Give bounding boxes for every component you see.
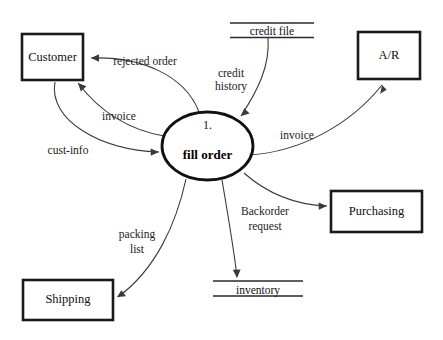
- entity-ar-label: A/R: [379, 48, 401, 62]
- process-fill-order-name: fill order: [183, 147, 233, 162]
- flow-label-backorder-request-line1: Backorder: [241, 205, 289, 217]
- diagram-canvas: Customer A/R Purchasing Shipping credit …: [0, 0, 443, 340]
- flow-label-credit-history-line2: history: [215, 80, 247, 93]
- flow-invoice-ar: [249, 85, 387, 155]
- flow-label-credit-history: credit history: [215, 67, 247, 93]
- process-fill-order[interactable]: 1. fill order: [162, 112, 253, 180]
- flow-label-cust-info: cust-info: [48, 144, 89, 156]
- flow-label-invoice-ar: invoice: [280, 129, 314, 141]
- datastore-inventory-label: inventory: [236, 284, 280, 297]
- entity-shipping-label: Shipping: [45, 292, 91, 306]
- datastore-credit-file[interactable]: credit file: [230, 23, 314, 38]
- flow-inventory: [222, 180, 241, 278]
- entity-purchasing-label: Purchasing: [349, 204, 405, 218]
- flow-inventory-path: [222, 180, 237, 277]
- flow-credit-history-arrowhead: [241, 108, 250, 116]
- flow-label-rejected-order: rejected order: [113, 55, 177, 68]
- entity-ar[interactable]: A/R: [358, 32, 420, 79]
- datastore-inventory[interactable]: inventory: [213, 281, 303, 297]
- datastore-credit-file-label: credit file: [250, 25, 294, 37]
- flow-cust-info-arrowhead: [151, 148, 159, 155]
- process-fill-order-number: 1.: [203, 118, 212, 132]
- flow-backorder-request-arrowhead: [319, 202, 327, 209]
- flow-invoice-customer-arrowhead: [78, 83, 86, 91]
- flow-label-backorder-request: Backorder request: [241, 205, 289, 233]
- flow-label-packing-list-line2: list: [130, 243, 145, 255]
- flow-label-invoice-customer: invoice: [102, 110, 136, 122]
- entity-customer[interactable]: Customer: [22, 34, 83, 80]
- flow-label-packing-list: packing list: [119, 228, 156, 255]
- entity-shipping[interactable]: Shipping: [23, 280, 113, 320]
- flow-label-packing-list-line1: packing: [119, 228, 156, 241]
- entity-purchasing[interactable]: Purchasing: [331, 191, 422, 232]
- flow-rejected-order-arrowhead: [91, 54, 99, 62]
- flow-invoice-ar-path: [249, 85, 382, 155]
- entity-customer-label: Customer: [28, 50, 77, 64]
- flow-label-backorder-request-line2: request: [248, 220, 282, 233]
- flow-credit-history: [241, 38, 268, 116]
- flow-inventory-arrowhead: [233, 269, 241, 278]
- flow-credit-history-path: [241, 38, 268, 116]
- flow-backorder-request-path: [244, 173, 327, 206]
- data-flow-diagram: Customer A/R Purchasing Shipping credit …: [0, 0, 443, 340]
- flow-label-credit-history-line1: credit: [218, 67, 245, 79]
